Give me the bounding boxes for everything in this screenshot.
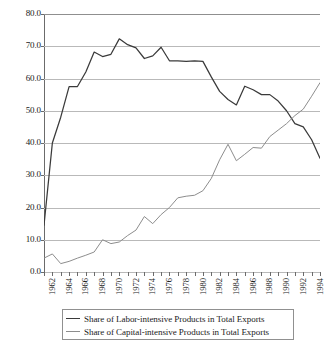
x-tick-mark	[94, 272, 95, 276]
x-tick-mark	[295, 272, 296, 276]
x-tick-mark	[119, 272, 120, 276]
x-tick-mark	[161, 272, 162, 276]
y-tick-label: 60.0	[1, 74, 41, 83]
x-tick-mark	[178, 272, 179, 276]
x-tick-label: 1972	[132, 278, 141, 295]
legend-item-capital: Share of Capital-intensive Products in T…	[66, 325, 290, 338]
x-tick-mark	[270, 272, 271, 276]
x-tick-mark	[253, 272, 254, 276]
x-tick-mark	[111, 272, 112, 276]
legend-label-capital: Share of Capital-intensive Products in T…	[84, 327, 269, 337]
x-tick-mark	[261, 272, 262, 276]
x-tick-mark	[236, 272, 237, 276]
chart-figure: 0.010.020.030.040.050.060.070.080.0 1962…	[0, 0, 332, 348]
x-tick-label: 1970	[115, 278, 124, 295]
x-tick-mark	[195, 272, 196, 276]
x-tick-label: 1962	[48, 278, 57, 295]
x-tick-mark	[52, 272, 53, 276]
x-tick-label: 1980	[199, 278, 208, 295]
x-tick-label: 1978	[182, 278, 191, 295]
y-tick-label: 80.0	[1, 9, 41, 18]
x-tick-mark	[169, 272, 170, 276]
x-tick-mark	[128, 272, 129, 276]
x-tick-mark	[136, 272, 137, 276]
x-tick-mark	[153, 272, 154, 276]
y-tick-label: 30.0	[1, 170, 41, 179]
legend-label-labor: Share of Labor-intensive Products in Tot…	[84, 314, 265, 324]
legend-swatch-labor	[66, 318, 80, 319]
x-tick-label: 1968	[98, 278, 107, 295]
x-tick-label: 1964	[65, 278, 74, 295]
x-tick-mark	[186, 272, 187, 276]
x-tick-label: 1976	[165, 278, 174, 295]
x-tick-label: 1992	[299, 278, 308, 295]
x-tick-mark	[320, 272, 321, 276]
x-tick-label: 1966	[81, 278, 90, 295]
chart-legend: Share of Labor-intensive Products in Tot…	[62, 309, 294, 340]
x-tick-mark	[303, 272, 304, 276]
legend-swatch-capital	[66, 331, 80, 332]
x-tick-mark	[278, 272, 279, 276]
plot-area	[44, 14, 320, 272]
x-tick-label: 1994	[316, 278, 325, 295]
x-tick-label: 1982	[215, 278, 224, 295]
y-tick-label: 10.0	[1, 235, 41, 244]
x-tick-mark	[211, 272, 212, 276]
x-tick-label: 1990	[282, 278, 291, 295]
x-tick-mark	[61, 272, 62, 276]
x-tick-mark	[144, 272, 145, 276]
x-tick-mark	[228, 272, 229, 276]
y-tick-label: 40.0	[1, 138, 41, 147]
x-tick-label: 1974	[148, 278, 157, 295]
y-tick-label: 50.0	[1, 106, 41, 115]
x-tick-mark	[245, 272, 246, 276]
x-tick-mark	[287, 272, 288, 276]
x-tick-mark	[103, 272, 104, 276]
x-tick-mark	[77, 272, 78, 276]
x-tick-label: 1988	[265, 278, 274, 295]
x-tick-label: 1986	[249, 278, 258, 295]
x-tick-mark	[86, 272, 87, 276]
x-tick-mark	[312, 272, 313, 276]
y-tick-label: 20.0	[1, 203, 41, 212]
x-tick-mark	[220, 272, 221, 276]
x-tick-mark	[69, 272, 70, 276]
series-line-capital	[44, 83, 320, 264]
legend-item-labor: Share of Labor-intensive Products in Tot…	[66, 312, 290, 325]
x-tick-mark	[203, 272, 204, 276]
series-lines	[44, 14, 320, 272]
y-tick-label: 70.0	[1, 41, 41, 50]
x-tick-mark	[44, 272, 45, 276]
x-tick-label: 1984	[232, 278, 241, 295]
